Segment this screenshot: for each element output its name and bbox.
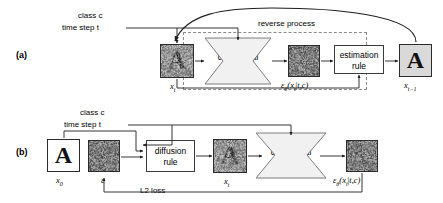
x-0-caption: x0 bbox=[56, 176, 63, 187]
unet-line1-a: conditional bbox=[218, 52, 259, 62]
unet-block-label-b: conditional U-Net θ bbox=[256, 147, 326, 168]
x-t-noisy-image-b bbox=[213, 139, 247, 173]
x-t-noisy-image bbox=[160, 44, 194, 78]
diffusion-rule-line2: rule bbox=[163, 157, 177, 167]
unet-line2-b: U-Net θ bbox=[276, 158, 305, 168]
x-t-minus-1-image: A bbox=[399, 44, 432, 77]
x-t-minus-1-caption: xt−1 bbox=[404, 81, 417, 92]
unet-block-label-a: conditional U-Net θ bbox=[206, 52, 270, 73]
class-label-a: class c bbox=[78, 12, 102, 20]
x-0-clean-image: A bbox=[47, 139, 80, 172]
reverse-process-label: reverse process bbox=[258, 20, 315, 28]
diffusion-model-figure: (a) class c time step t reverse process … bbox=[0, 0, 443, 203]
unet-line2-a: U-Net θ bbox=[223, 63, 252, 73]
epsilon-prediction-image-b bbox=[346, 140, 378, 172]
epsilon-noise-image bbox=[88, 140, 120, 172]
unet-line1-b: conditional bbox=[271, 147, 312, 157]
x-t-caption-a: xt bbox=[170, 82, 175, 93]
diffusion-rule-label: diffusion rule bbox=[146, 146, 195, 167]
panel-label-b: (b) bbox=[16, 148, 28, 157]
timestep-label-a: time step t bbox=[62, 24, 99, 32]
class-label-b: class c bbox=[80, 109, 104, 117]
l2-loss-label: L2 loss bbox=[140, 187, 165, 195]
panel-label-a: (a) bbox=[16, 51, 27, 60]
letter-glyph-x-t-minus-1: A bbox=[400, 45, 431, 76]
x-t-caption-b: xt bbox=[224, 177, 229, 188]
estimation-rule-line2: rule bbox=[352, 61, 366, 71]
timestep-label-b: time step t bbox=[64, 121, 101, 129]
epsilon-prediction-image-a bbox=[288, 45, 320, 77]
epsilon-prediction-caption-a: εθ(xt|t,c) bbox=[281, 81, 308, 92]
letter-glyph-x-0: A bbox=[48, 140, 79, 171]
estimation-rule-label: estimation rule bbox=[334, 50, 384, 71]
estimation-rule-line1: estimation bbox=[340, 50, 379, 60]
epsilon-prediction-caption-b: εθ(xt|t,c) bbox=[333, 176, 360, 187]
diffusion-rule-line1: diffusion bbox=[155, 146, 187, 156]
epsilon-caption: ε bbox=[101, 176, 104, 185]
